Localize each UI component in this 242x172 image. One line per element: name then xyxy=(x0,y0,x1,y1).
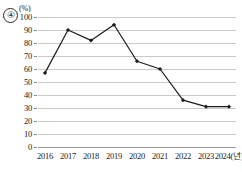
x-axis-tick-label: 2020 xyxy=(129,151,145,161)
y-axis-tick xyxy=(34,30,37,31)
x-axis-tick-label: 2017 xyxy=(60,151,76,161)
gridline xyxy=(38,147,236,148)
x-axis-tick-label: 2019 xyxy=(106,151,122,161)
y-axis-tick-label: 70 xyxy=(24,52,32,61)
option-number-marker: ④ xyxy=(3,8,18,23)
series-markers xyxy=(43,23,231,109)
y-axis-tick xyxy=(34,56,37,57)
y-axis-tick-label: 50 xyxy=(24,78,32,87)
y-axis-tick xyxy=(34,17,37,18)
chart-figure: ④ (%) 0102030405060708090100 20162017201… xyxy=(0,0,242,172)
x-axis-tick-label: 2024(년) xyxy=(215,151,242,161)
y-axis-tick xyxy=(34,108,37,109)
y-axis-tick xyxy=(34,82,37,83)
y-axis-tick-label: 30 xyxy=(24,104,32,113)
y-axis-tick xyxy=(34,134,37,135)
data-point-marker xyxy=(227,105,231,109)
y-axis-tick xyxy=(34,147,37,148)
y-axis-tick xyxy=(34,95,37,96)
y-axis-tick xyxy=(34,69,37,70)
x-axis-tick-label: 2021 xyxy=(152,151,168,161)
series-polyline xyxy=(45,25,229,107)
data-point-marker xyxy=(66,28,70,32)
y-axis-tick-label: 80 xyxy=(24,39,32,48)
y-axis-tick-label: 90 xyxy=(24,26,32,35)
x-axis-tick-label: 2016 xyxy=(37,151,53,161)
y-axis-tick-label: 20 xyxy=(24,117,32,126)
y-axis-tick-label: 100 xyxy=(20,13,32,22)
plot-area: 0102030405060708090100 20162017201820192… xyxy=(38,17,236,147)
y-axis-tick xyxy=(34,43,37,44)
y-axis-tick xyxy=(34,121,37,122)
x-axis-tick-label: 2023 xyxy=(198,151,214,161)
x-axis-tick-label: 2018 xyxy=(83,151,99,161)
data-point-marker xyxy=(204,105,208,109)
y-axis-tick-label: 40 xyxy=(24,91,32,100)
data-point-marker xyxy=(43,71,47,75)
x-axis-tick-label: 2022 xyxy=(175,151,191,161)
y-axis-tick-label: 0 xyxy=(28,143,32,152)
y-axis-tick-label: 10 xyxy=(24,130,32,139)
line-series xyxy=(38,17,236,147)
y-axis-tick-label: 60 xyxy=(24,65,32,74)
